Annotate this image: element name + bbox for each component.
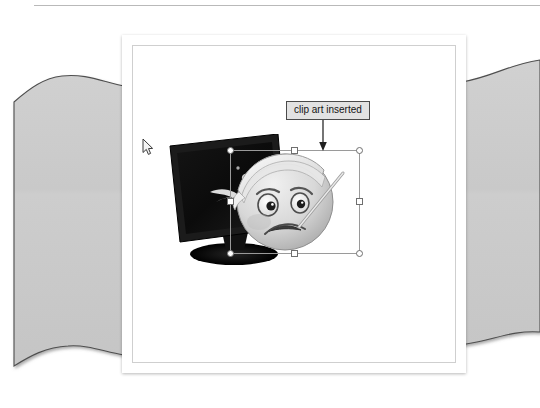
screenshot-stage: clip art inserted	[0, 0, 540, 408]
injured-smiley-face-clipart[interactable]	[229, 148, 361, 256]
smiley-face-icon	[229, 148, 361, 256]
callout-arrow-icon	[318, 118, 328, 152]
annotation-callout[interactable]: clip art inserted	[286, 101, 370, 120]
top-divider-rule	[34, 5, 540, 6]
mouse-pointer	[142, 138, 154, 156]
